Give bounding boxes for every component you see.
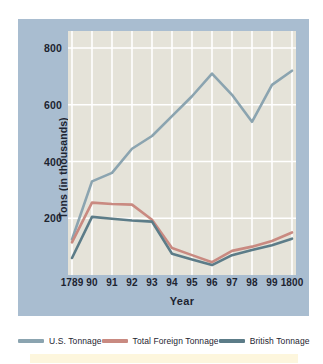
vertical-gridlines [72,31,292,275]
x-tick-label: 93 [146,277,157,288]
series-line [72,217,292,265]
y-axis-tick-labels: 200400600800 [18,31,66,275]
x-tick-label: 1789 [61,277,84,288]
x-axis-title: Year [68,295,296,307]
legend-swatch [219,339,245,343]
x-tick-label: 95 [186,277,197,288]
legend-item: British Tonnage [219,336,310,346]
x-tick-label: 91 [106,277,117,288]
x-tick-label: 92 [126,277,137,288]
legend-label: British Tonnage [250,336,310,346]
series-line [72,71,292,240]
x-tick-label: 1800 [281,277,304,288]
legend-label: Total Foreign Tonnage [133,336,219,346]
legend-swatch [18,339,44,343]
x-tick-label: 99 [266,277,277,288]
y-tick-label: 600 [44,99,62,111]
y-tick-label: 400 [44,156,62,168]
plot-area [68,31,296,275]
chart-panel: Tons (in thousands) 200400600800 1789909… [18,19,309,316]
x-tick-label: 97 [226,277,237,288]
line-chart-svg [68,31,296,275]
x-axis-tick-labels: 1789909192939495969798991800 [68,277,296,293]
x-tick-label: 98 [246,277,257,288]
bottom-caption-band [30,354,298,363]
series-line [72,203,292,263]
legend-label: U.S. Tonnage [49,336,102,346]
data-series-lines [72,71,292,265]
y-tick-label: 800 [44,42,62,54]
horizontal-gridlines [68,48,296,218]
chart-legend: U.S. TonnageTotal Foreign TonnageBritish… [18,334,309,348]
x-tick-label: 96 [206,277,217,288]
x-tick-label: 94 [166,277,177,288]
y-tick-label: 200 [44,212,62,224]
legend-item: U.S. Tonnage [18,336,102,346]
legend-item: Total Foreign Tonnage [102,336,219,346]
legend-swatch [102,339,128,343]
x-tick-label: 90 [86,277,97,288]
